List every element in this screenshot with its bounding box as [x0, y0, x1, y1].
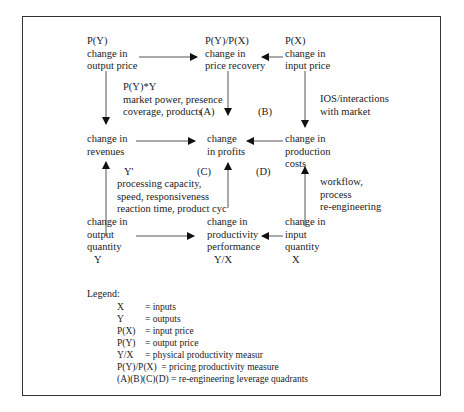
node-price-recovery: P(Y)/P(X) change in price recovery [205, 35, 265, 73]
node-input-quantity-line3: quantity [285, 241, 326, 254]
ios-line2: with market [320, 106, 389, 119]
workflow-line2: process [320, 189, 381, 202]
legend-meaning: = pricing productivity measure [161, 362, 278, 372]
quadrant-d-label: (D) [256, 166, 271, 179]
legend-item: X= inputs [117, 302, 176, 313]
legend-item: P(Y)/P(X) = pricing productivity measure [117, 362, 279, 373]
node-input-quantity-line2: input [285, 229, 326, 242]
node-profits-line1: change [207, 133, 245, 146]
legend-title: Legend: [87, 288, 120, 299]
legend-meaning: = physical productivity measur [145, 350, 263, 360]
quadrant-c-line1: processing capacity, [117, 178, 227, 191]
quadrant-c-label: (C) [197, 166, 211, 179]
annotation-ios: IOS/interactions with market [320, 93, 389, 118]
node-input-quantity-line1: change in [285, 216, 326, 229]
node-productivity-line2: productivity [207, 229, 260, 242]
legend-item: Y= outputs [117, 314, 181, 325]
workflow-line1: workflow, [320, 176, 381, 189]
node-production-costs: change in production costs [285, 133, 331, 171]
node-output-price-symbol: P(Y) [87, 35, 137, 48]
node-revenues-line1: change in [87, 133, 128, 146]
node-price-recovery-line2: price recovery [205, 60, 265, 73]
legend-symbol: P(X) [117, 326, 145, 337]
legend-meaning: = input price [145, 326, 194, 336]
ios-line1: IOS/interactions [320, 93, 389, 106]
node-revenues: change in revenues [87, 133, 128, 158]
node-input-quantity-symbol: X [285, 254, 326, 267]
node-input-price-line2: input price [285, 60, 330, 73]
legend-meaning: = outputs [145, 314, 181, 324]
legend-meaning: = re-engineering leverage quadrants [171, 374, 308, 384]
quadrant-b-label: (B) [258, 106, 272, 119]
node-output-price: P(Y) change in output price [87, 35, 137, 73]
node-output-quantity-line3: quantity [87, 241, 128, 254]
node-production-costs-line3: costs [285, 158, 331, 171]
node-input-quantity: change in input quantity X [285, 216, 326, 266]
node-productivity-line1: change in [207, 216, 260, 229]
legend-symbol: P(Y)/P(X) [117, 362, 157, 372]
legend-item: P(X)= input price [117, 326, 194, 337]
node-productivity-symbol: Y/X [207, 254, 260, 267]
workflow-line3: re-engineering [320, 201, 381, 214]
legend-meaning: = output price [145, 338, 198, 348]
annotation-workflow: workflow, process re-engineering [320, 176, 381, 214]
legend-item: Y/X= physical productivity measur [117, 350, 263, 361]
legend-symbol: (A)(B)(C)(D) [117, 374, 169, 384]
node-input-price: P(X) change in input price [285, 35, 330, 73]
legend-item: P(Y)= output price [117, 338, 198, 349]
node-profits-line2: in profits [207, 146, 245, 159]
node-productivity-line3: performance [207, 241, 260, 254]
node-output-price-line2: output price [87, 60, 137, 73]
node-output-price-line1: change in [87, 48, 137, 61]
quadrant-c-line2: speed, responsiveness [117, 191, 227, 204]
node-price-recovery-symbol: P(Y)/P(X) [205, 35, 265, 48]
node-output-quantity-line2: output [87, 229, 128, 242]
node-revenues-line2: revenues [87, 146, 128, 159]
legend-symbol: X [117, 302, 145, 313]
annotation-quadrant-c: processing capacity, speed, responsivene… [117, 178, 227, 216]
legend-symbol: Y/X [117, 350, 145, 361]
node-profits: change in profits [207, 133, 245, 158]
node-price-recovery-line1: change in [205, 48, 265, 61]
quadrant-a-line1: market power, presence [123, 94, 223, 107]
node-production-costs-line2: production [285, 146, 331, 159]
node-input-price-line1: change in [285, 48, 330, 61]
node-output-quantity-line1: change in [87, 216, 128, 229]
node-output-quantity: change in output quantity Y [87, 216, 128, 266]
node-output-quantity-symbol: Y [87, 254, 128, 267]
legend-item: (A)(B)(C)(D) = re-engineering leverage q… [117, 374, 308, 385]
legend-symbol: Y [117, 314, 145, 325]
quadrant-c-formula: Y' [124, 166, 133, 179]
node-productivity: change in productivity performance Y/X [207, 216, 260, 266]
node-input-price-symbol: P(X) [285, 35, 330, 48]
node-production-costs-line1: change in [285, 133, 331, 146]
legend-symbol: P(Y) [117, 338, 145, 349]
quadrant-a-formula: P(Y)*Y [123, 81, 223, 94]
quadrant-c-line3: reaction time, product cyc [117, 203, 227, 216]
legend-meaning: = inputs [145, 302, 176, 312]
quadrant-a-label: (A) [200, 106, 215, 119]
